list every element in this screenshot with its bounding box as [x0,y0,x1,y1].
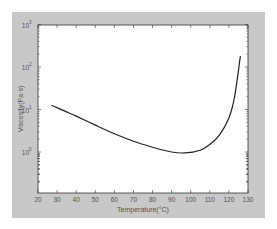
x-tick-label: 110 [205,196,216,203]
x-tick-label: 60 [111,196,119,203]
viscosity-chart: 2030405060708090100110120130 10010110210… [0,0,277,229]
x-tick-label: 40 [73,196,81,203]
x-tick-label: 20 [34,196,42,203]
x-tick-label: 30 [53,196,61,203]
plot-area [38,25,248,193]
x-tick-label: 70 [130,196,138,203]
x-tick-label: 120 [223,196,234,203]
x-tick-label: 130 [243,196,254,203]
chart-canvas: 2030405060708090100110120130 10010110210… [0,0,277,229]
x-tick-label: 90 [168,196,176,203]
x-axis-label: Temperature(°C) [117,206,169,214]
y-axis-label: Viscosity(Pa·s) [17,86,25,133]
x-tick-label: 50 [92,196,100,203]
x-tick-label: 80 [149,196,157,203]
x-tick-label: 100 [185,196,196,203]
